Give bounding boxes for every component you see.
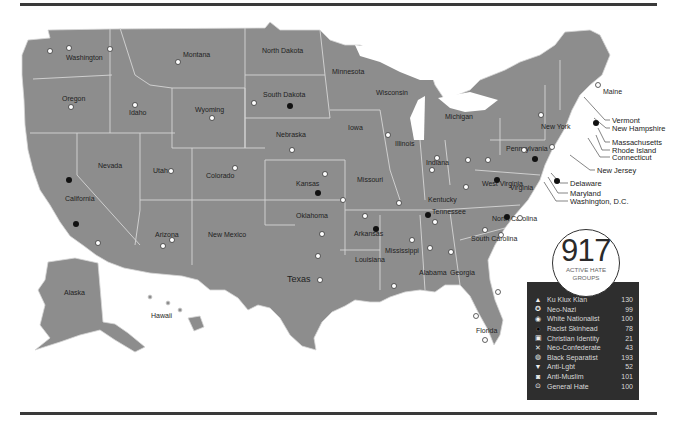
legend-label: Anti-Muslim xyxy=(543,373,611,380)
map-legend: ▲Ku Klux Klan130 ✪Neo-Nazi99 ◉White Nati… xyxy=(527,282,639,400)
legend-count: 101 xyxy=(611,373,633,380)
total-groups-number: 917 xyxy=(553,236,619,266)
christian-identity-icon: ▣ xyxy=(533,334,543,342)
legend-item-white-nationalist: ◉White Nationalist100 xyxy=(533,314,633,324)
counter-caption-line2: GROUPS xyxy=(553,274,619,282)
state-label-oklahoma: Oklahoma xyxy=(296,212,328,219)
state-label-north-carolina: North Carolina xyxy=(492,215,537,222)
state-label-south-carolina: South Carolina xyxy=(471,235,517,242)
legend-count: 100 xyxy=(611,383,633,390)
state-label-oregon: Oregon xyxy=(62,95,85,103)
legend-count: 100 xyxy=(611,315,633,322)
state-label-kansas: Kansas xyxy=(296,180,320,187)
callout-delaware: Delaware xyxy=(570,179,602,188)
state-label-north-dakota: North Dakota xyxy=(262,47,303,54)
state-label-utah: Utah xyxy=(153,167,168,174)
legend-label: General Hate xyxy=(543,383,611,390)
state-label-south-dakota: South Dakota xyxy=(263,91,306,98)
legend-label: White Nationalist xyxy=(543,315,611,322)
state-label-hawaii: Hawaii xyxy=(151,312,172,319)
state-label-kentucky: Kentucky xyxy=(428,196,457,204)
legend-item-neo-confederate: ✕Neo-Confederate43 xyxy=(533,343,633,353)
legend-label: Ku Klux Klan xyxy=(543,296,611,303)
black-separatist-icon: ◍ xyxy=(533,353,543,361)
legend-item-neo-nazi: ✪Neo-Nazi99 xyxy=(533,305,633,315)
state-label-montana: Montana xyxy=(183,51,210,58)
callout-washington-dc: Washington, D.C. xyxy=(570,197,629,206)
state-label-new-york: New York xyxy=(541,123,571,130)
legend-count: 78 xyxy=(611,325,633,332)
hawaii-island xyxy=(166,301,170,305)
callout-connecticut: Connecticut xyxy=(612,153,653,162)
legend-item-racist-skinhead: ●Racist Skinhead78 xyxy=(533,324,633,334)
neo-confederate-icon: ✕ xyxy=(533,344,543,352)
state-label-california: California xyxy=(65,195,95,202)
hawaii-island xyxy=(178,308,182,312)
legend-count: 99 xyxy=(611,306,633,313)
legend-label: Neo-Confederate xyxy=(543,344,611,351)
neo-nazi-icon: ✪ xyxy=(533,305,543,313)
anti-lgbt-icon: ▼ xyxy=(533,363,543,370)
state-label-mississippi: Mississippi xyxy=(385,247,419,255)
state-label-nebraska: Nebraska xyxy=(276,131,306,138)
hawaii-shape xyxy=(188,316,204,331)
state-label-wyoming: Wyoming xyxy=(195,106,224,114)
state-label-arkansas: Arkansas xyxy=(354,230,384,237)
state-label-new-mexico: New Mexico xyxy=(208,231,246,238)
legend-label: Black Separatist xyxy=(543,354,611,361)
state-label-wisconsin: Wisconsin xyxy=(376,89,408,96)
legend-item-general-hate: ⊙General Hate100 xyxy=(533,381,633,391)
state-label-missouri: Missouri xyxy=(357,176,384,183)
state-label-georgia: Georgia xyxy=(450,269,475,277)
state-label-texas: Texas xyxy=(287,274,311,284)
legend-label: Racist Skinhead xyxy=(543,325,611,332)
bottom-rule xyxy=(20,412,657,415)
state-label-nevada: Nevada xyxy=(98,162,122,169)
callout-new-hampshire: New Hampshire xyxy=(612,124,665,133)
state-label-idaho: Idaho xyxy=(129,109,147,116)
state-label-colorado: Colorado xyxy=(206,172,235,179)
legend-item-christian-identity: ▣Christian Identity21 xyxy=(533,333,633,343)
state-label-tennessee: Tennessee xyxy=(432,208,466,215)
legend-label: Anti-Lgbt xyxy=(543,363,611,370)
anti-muslim-icon: ◙ xyxy=(533,373,543,380)
legend-item-anti-muslim: ◙Anti-Muslim101 xyxy=(533,372,633,382)
racist-skinhead-icon: ● xyxy=(533,325,543,332)
legend-count: 193 xyxy=(611,354,633,361)
legend-item-black-separatist: ◍Black Separatist193 xyxy=(533,353,633,363)
state-label-florida: Florida xyxy=(476,327,498,334)
ku-klux-klan-icon: ▲ xyxy=(533,296,543,303)
state-label-west-virginia: West Virginia xyxy=(482,180,523,188)
legend-item-anti-lgbt: ▼Anti-Lgbt52 xyxy=(533,362,633,372)
legend-label: Neo-Nazi xyxy=(543,306,611,313)
state-label-alabama: Alabama xyxy=(419,269,447,276)
state-label-arizona: Arizona xyxy=(155,231,179,238)
active-groups-counter: 917 ACTIVE HATE GROUPS xyxy=(552,229,620,297)
legend-count: 21 xyxy=(611,335,633,342)
alaska-shape xyxy=(35,258,145,352)
general-hate-icon: ⊙ xyxy=(533,382,543,390)
white-nationalist-icon: ◉ xyxy=(533,315,543,323)
legend-count: 43 xyxy=(611,344,633,351)
state-label-maine: Maine xyxy=(603,88,622,95)
legend-label: Christian Identity xyxy=(543,335,611,342)
hawaii-island xyxy=(148,295,152,299)
state-label-louisiana: Louisiana xyxy=(355,256,385,263)
legend-count: 130 xyxy=(611,296,633,303)
state-label-illinois: Illinois xyxy=(395,140,415,147)
state-label-pennsylvania: Pennsylvania xyxy=(506,145,548,153)
legend-count: 52 xyxy=(611,363,633,370)
state-label-alaska: Alaska xyxy=(64,289,85,296)
state-label-washington: Washington xyxy=(66,54,103,62)
state-label-iowa: Iowa xyxy=(348,124,363,131)
state-label-minnesota: Minnesota xyxy=(332,68,364,75)
state-label-michigan: Michigan xyxy=(445,113,473,121)
callout-new-jersey: New Jersey xyxy=(597,166,636,175)
